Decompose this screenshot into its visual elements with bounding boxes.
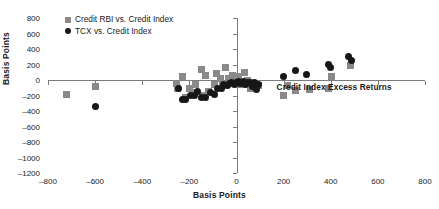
data-point-tcx [348, 57, 355, 64]
y-axis-tick [233, 142, 237, 143]
y-axis-tick [233, 127, 237, 128]
y-axis-tick-label: –200 [0, 92, 40, 101]
data-point-credit-rbi [222, 64, 229, 71]
y-axis-tick [233, 96, 237, 97]
y-axis-tick-label: 800 [0, 14, 40, 23]
y-axis-tick [233, 34, 237, 35]
y-axis-tick [233, 65, 237, 66]
x-axis-tick-label: –600 [75, 177, 115, 186]
x-axis-tick-label: 400 [311, 177, 351, 186]
data-point-tcx [92, 103, 99, 110]
x-axis-tick-label: –200 [169, 177, 209, 186]
y-axis-tick-label: 200 [0, 61, 40, 70]
y-axis-tick-label: 400 [0, 45, 40, 54]
data-point-credit-rbi [179, 73, 186, 80]
plot-area [48, 18, 425, 173]
y-axis-tick-label: –1200 [0, 169, 40, 178]
y-axis-tick-label: 0 [0, 76, 40, 85]
y-axis-tick [233, 18, 237, 19]
y-axis-tick [233, 49, 237, 50]
x-axis-tick [425, 81, 426, 85]
x-axis-tick-label: –400 [122, 177, 162, 186]
data-point-credit-rbi [63, 91, 70, 98]
data-point-credit-rbi [241, 69, 248, 76]
y-axis-tick-label: –1000 [0, 154, 40, 163]
data-point-tcx [280, 73, 287, 80]
x-axis-tick [142, 81, 143, 85]
x-axis-tick-label: 800 [405, 177, 439, 186]
y-axis-tick [233, 111, 237, 112]
data-point-credit-rbi [328, 73, 335, 80]
y-axis-tick-label: –800 [0, 138, 40, 147]
annotation-credit-index-excess-returns: Credit Index Excess Returns [277, 82, 392, 92]
x-axis-tick-label: 0 [217, 177, 257, 186]
data-point-credit-rbi [192, 81, 199, 88]
data-point-credit-rbi [202, 72, 209, 79]
x-axis-tick-label: 200 [264, 177, 304, 186]
y-axis-line [237, 18, 238, 173]
y-axis-tick [233, 158, 237, 159]
x-axis-tick [48, 81, 49, 85]
data-point-tcx [175, 85, 182, 92]
data-point-tcx [303, 71, 310, 78]
y-axis-tick [233, 173, 237, 174]
scatter-chart: Basis Points Basis Points Credit RBI vs.… [0, 0, 439, 209]
y-axis-tick-label: –400 [0, 107, 40, 116]
x-axis-tick-label: 600 [358, 177, 398, 186]
x-axis-tick-label: –800 [28, 177, 68, 186]
data-point-credit-rbi [92, 83, 99, 90]
data-point-credit-rbi [280, 92, 287, 99]
y-axis-tick-label: –600 [0, 123, 40, 132]
data-point-tcx [292, 67, 299, 74]
data-point-tcx [327, 64, 334, 71]
y-axis-tick-label: 600 [0, 30, 40, 39]
x-axis-title: Basis Points [0, 190, 439, 200]
